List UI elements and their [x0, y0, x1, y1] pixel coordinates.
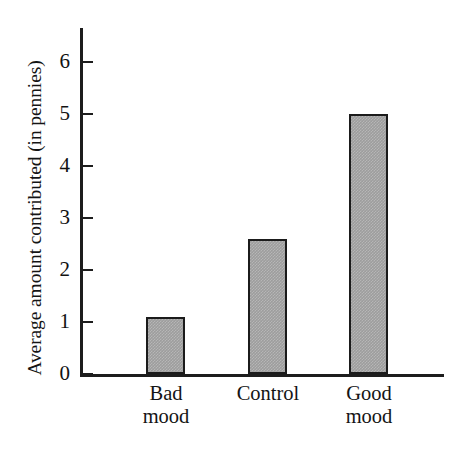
bar-good-mood	[349, 114, 388, 374]
y-tick-label-0: 0	[48, 363, 70, 384]
y-tick-label-2: 2	[48, 259, 70, 280]
y-tick-mark-2	[82, 269, 93, 271]
x-category-label-line1: Good	[346, 382, 392, 404]
x-axis-line	[80, 374, 444, 377]
x-category-label-line1: Control	[237, 382, 300, 404]
y-tick-mark-3	[82, 217, 93, 219]
y-tick-label-6: 6	[48, 51, 70, 72]
plot-area: 0 1 2 3 4 5 6	[80, 28, 444, 376]
x-category-label-line1: Bad	[149, 382, 182, 404]
y-axis-line	[80, 28, 83, 376]
y-axis-title: Average amount contributed (in pennies)	[18, 18, 52, 418]
y-tick-label-3: 3	[48, 207, 70, 228]
y-tick-label-5: 5	[48, 103, 70, 124]
y-tick-mark-0	[82, 373, 93, 375]
y-tick-mark-6	[82, 61, 93, 63]
x-category-label-line2: mood	[106, 405, 226, 428]
bar-chart-figure: Average amount contributed (in pennies) …	[0, 0, 471, 451]
y-tick-mark-5	[82, 113, 93, 115]
y-tick-mark-4	[82, 165, 93, 167]
bar-control	[248, 239, 287, 374]
y-tick-mark-1	[82, 321, 93, 323]
x-category-label-good-mood: Good mood	[309, 382, 429, 428]
y-tick-label-4: 4	[48, 155, 70, 176]
y-tick-label-1: 1	[48, 311, 70, 332]
x-category-label-line2: mood	[309, 405, 429, 428]
bar-bad-mood	[146, 317, 185, 374]
